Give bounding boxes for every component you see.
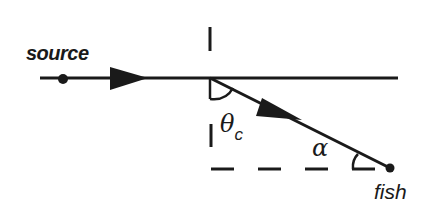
theta-angle-arc bbox=[210, 88, 233, 99]
fish-dot bbox=[386, 164, 395, 173]
alpha-label: α bbox=[312, 134, 328, 162]
theta-c-label: θc bbox=[220, 110, 243, 143]
alpha-angle-arc bbox=[353, 154, 358, 169]
source-dot bbox=[58, 74, 68, 84]
refracted-arrow-icon bbox=[256, 98, 302, 120]
theta-symbol: θ bbox=[220, 110, 234, 138]
refraction-diagram bbox=[0, 0, 441, 209]
theta-subscript: c bbox=[234, 125, 243, 144]
source-label: source bbox=[26, 42, 89, 65]
incident-arrow-icon bbox=[110, 67, 148, 90]
fish-label: fish bbox=[374, 180, 407, 204]
